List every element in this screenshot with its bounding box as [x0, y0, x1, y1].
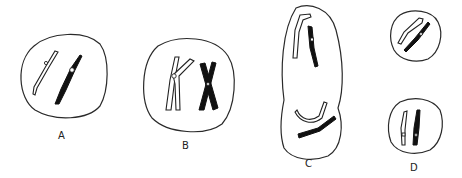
cell-d-bottom: [388, 99, 442, 154]
centromere: [415, 134, 418, 137]
centromere: [207, 83, 210, 86]
label-b: B: [182, 140, 189, 151]
diagram-canvas: [0, 0, 462, 178]
cell-c: [281, 6, 342, 159]
centromere: [311, 38, 314, 41]
cell-d-top: [391, 11, 441, 61]
label-a: A: [58, 130, 65, 141]
centromere: [402, 133, 405, 136]
centromere: [420, 33, 423, 36]
chromosome-hollow: [33, 51, 58, 95]
chromosome-dark: [55, 55, 82, 104]
centromere: [44, 61, 47, 64]
centromere: [172, 74, 176, 78]
centromere: [70, 68, 75, 73]
chromosome-dark: [413, 110, 420, 145]
cell-a: [21, 34, 107, 117]
chromosome-hollow: [398, 18, 423, 44]
chromosome-hollow-top: [293, 14, 311, 58]
chromosome-dark-top: [308, 26, 318, 67]
label-c: C: [305, 158, 312, 169]
chromosome-hollow-bottom: [295, 102, 327, 122]
label-d: D: [410, 162, 418, 173]
cell-b: [144, 39, 235, 132]
chromosome-hollow: [401, 111, 407, 145]
